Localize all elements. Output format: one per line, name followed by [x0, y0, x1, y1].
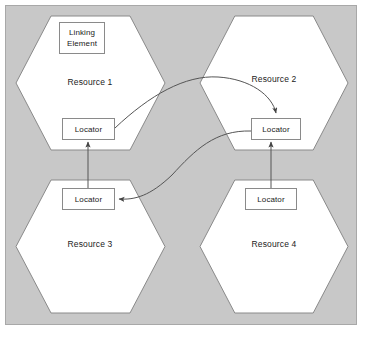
diagram-canvas — [0, 0, 368, 337]
node-locator-3[interactable]: Locator — [62, 188, 115, 210]
node-label-linking-element: Linking Element — [67, 27, 97, 49]
node-label-locator-4: Locator — [257, 194, 284, 205]
diagram-screenshot: Resource 1Resource 2Resource 3Resource 4… — [0, 0, 368, 337]
node-label-locator-3: Locator — [75, 194, 102, 205]
node-label-locator-2: Locator — [262, 124, 289, 135]
node-label-locator-1: Locator — [75, 124, 102, 135]
node-locator-1[interactable]: Locator — [62, 118, 115, 140]
node-linking-element[interactable]: Linking Element — [59, 22, 105, 54]
node-locator-2[interactable]: Locator — [251, 118, 301, 140]
node-locator-4[interactable]: Locator — [245, 188, 297, 210]
